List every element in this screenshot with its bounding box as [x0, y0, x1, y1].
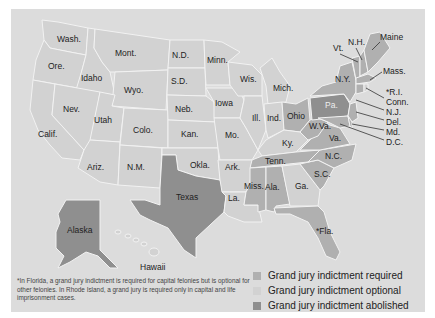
label-vt: Vt. [333, 43, 343, 53]
label-calif: Calif. [38, 129, 57, 139]
label-sc: S.C. [314, 169, 331, 179]
state-conn [356, 84, 364, 94]
label-alaska: Alaska [67, 225, 93, 235]
label-idaho: Idaho [81, 73, 103, 83]
label-nm: N.M. [127, 162, 145, 172]
legend-label-abolished: Grand jury indictment abolished [268, 300, 409, 311]
label-mass: Mass. [383, 66, 406, 76]
label-maine: Maine [380, 32, 403, 42]
label-iowa: Iowa [215, 98, 233, 108]
label-nc: N.C. [325, 151, 342, 161]
label-nj: N.J. [386, 107, 401, 117]
legend-item-abolished: Grand jury indictment abolished [253, 298, 409, 313]
label-tenn: Tenn. [265, 156, 286, 166]
label-sd: S.D. [171, 76, 188, 86]
state-hawaii [115, 230, 159, 256]
legend-item-required: Grand jury indictment required [253, 268, 409, 283]
label-ark: Ark. [225, 162, 240, 172]
label-mont: Mont. [115, 48, 136, 58]
label-colo: Colo. [133, 125, 153, 135]
label-ariz: Ariz. [87, 162, 104, 172]
label-nev: Nev. [63, 104, 80, 114]
swatch-required [253, 272, 261, 280]
label-nh: N.H. [348, 37, 365, 47]
label-del: Del. [386, 117, 401, 127]
label-ky: Ky. [282, 138, 294, 148]
swatch-optional [253, 287, 261, 295]
legend-item-optional: Grand jury indictment optional [253, 283, 409, 298]
label-wash: Wash. [57, 34, 81, 44]
label-okla: Okla. [190, 160, 210, 170]
legend-label-optional: Grand jury indictment optional [268, 285, 401, 296]
label-minn: Minn. [207, 55, 228, 65]
label-ga: Ga. [295, 181, 309, 191]
swatch-abolished [253, 302, 261, 310]
legend-label-required: Grand jury indictment required [268, 270, 403, 281]
label-ind: Ind. [267, 113, 281, 123]
label-wis: Wis. [240, 74, 257, 84]
label-ohio: Ohio [287, 111, 305, 121]
label-md: Md. [386, 127, 400, 137]
label-nd: N.D. [172, 50, 189, 60]
label-miss: Miss. [244, 181, 264, 191]
label-mo: Mo. [225, 130, 239, 140]
legend: Grand jury indictment required Grand jur… [253, 268, 409, 313]
label-wyo: Wyo. [124, 85, 143, 95]
label-neb: Neb. [175, 104, 193, 114]
label-ri: *R.I. [386, 87, 403, 97]
label-pa: Pa. [325, 100, 338, 110]
label-kan: Kan. [181, 129, 199, 139]
state-mich [260, 58, 290, 104]
label-va: Va. [329, 133, 341, 143]
footnote: *In Florida, a grand jury indictment is … [17, 277, 252, 303]
label-texas: Texas [176, 192, 198, 202]
label-mich: Mich. [273, 83, 293, 93]
label-wva: W.Va. [309, 121, 331, 131]
label-hawaii: Hawaii [140, 262, 166, 272]
label-ala: Ala. [265, 182, 280, 192]
label-la: La. [228, 193, 240, 203]
label-conn: Conn. [386, 97, 409, 107]
label-dc: D.C. [386, 137, 403, 147]
label-fla: *Fla. [316, 226, 333, 236]
label-ore: Ore. [48, 61, 65, 71]
label-ny: N.Y. [335, 74, 350, 84]
label-ill: Ill. [252, 113, 261, 123]
label-utah: Utah [94, 115, 112, 125]
